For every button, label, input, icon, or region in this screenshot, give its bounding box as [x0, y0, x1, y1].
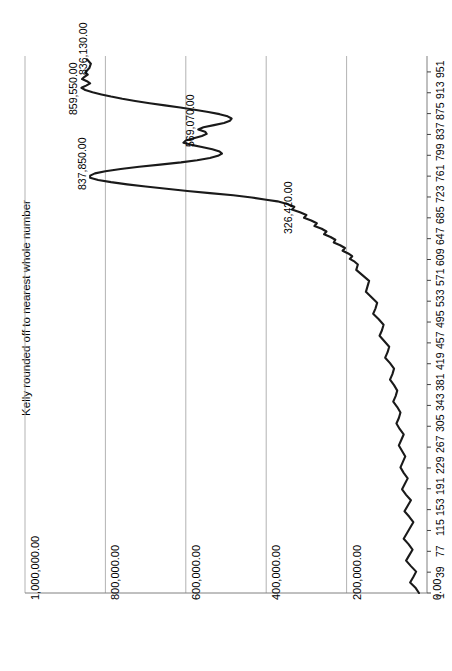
- data-callout-1: 859,550.00: [67, 62, 79, 115]
- value-axis-label-4: 200,000.00: [351, 520, 363, 600]
- series-line-0: [81, 59, 419, 593]
- value-axis-label-3: 400,000.00: [270, 520, 282, 600]
- value-axis-label-2: 600,000.00: [190, 520, 202, 600]
- data-callout-2: 837,850.00: [76, 137, 88, 190]
- category-axis-label-25: 951: [434, 18, 446, 78]
- data-callout-4: 326,420.00: [282, 182, 294, 235]
- value-axis-label-0: 1,000,000.00: [29, 520, 41, 600]
- data-callout-3: 569,070.00: [184, 94, 196, 147]
- chart-container: Kelly rounded off to nearest whole numbe…: [0, 0, 452, 671]
- value-axis-label-1: 800,000.00: [109, 520, 121, 600]
